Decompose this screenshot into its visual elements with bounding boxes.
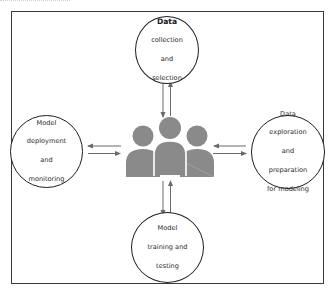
node-line: Model	[27, 119, 66, 128]
node-data-exploration: Data exploration and preparation for mod…	[251, 115, 325, 189]
node-line: testing	[147, 262, 187, 271]
arrow-pair-left	[88, 146, 121, 154]
node-line: and	[267, 147, 309, 156]
node-line: exploration	[267, 128, 309, 137]
node-label: Data exploration and preparation for mod…	[267, 100, 309, 203]
arrow-pair-bottom	[163, 181, 171, 216]
node-line: monitoring	[27, 175, 66, 184]
arrow-pair-right	[213, 146, 246, 154]
node-model-training: Model training and testing	[131, 212, 204, 283]
node-line: for modeling	[267, 185, 309, 194]
people-group-icon	[126, 117, 214, 177]
node-line: Data	[267, 110, 309, 119]
node-label: Model training and testing	[147, 215, 187, 281]
node-label: Data collection and selection	[151, 8, 183, 93]
node-line: collection	[151, 36, 183, 45]
node-line: deployment	[27, 137, 66, 146]
node-line: training and	[147, 243, 187, 252]
node-line: Model	[147, 224, 187, 233]
node-data-collection: Data collection and selection	[135, 16, 199, 84]
node-line: preparation	[267, 166, 309, 175]
node-line: and	[27, 156, 66, 165]
node-line: Data	[151, 17, 183, 26]
node-model-deployment: Model deployment and monitoring	[10, 115, 83, 188]
node-line: selection	[151, 74, 183, 83]
node-label: Model deployment and monitoring	[27, 109, 66, 194]
node-line: and	[151, 55, 183, 64]
